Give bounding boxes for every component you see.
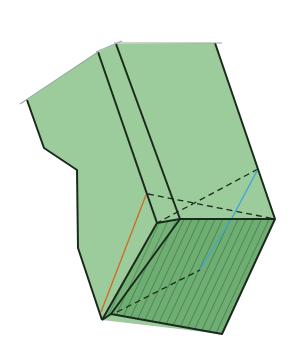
prism-diagram	[0, 0, 299, 364]
